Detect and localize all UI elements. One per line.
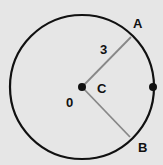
right-point-dot bbox=[149, 83, 157, 91]
label-a: A bbox=[133, 16, 143, 31]
label-b: B bbox=[138, 140, 147, 155]
center-point-dot bbox=[78, 83, 86, 91]
label-radius-length: 3 bbox=[100, 42, 107, 57]
label-c: C bbox=[97, 81, 107, 96]
label-zero: 0 bbox=[66, 95, 73, 110]
circle-diagram: A B C 3 0 bbox=[0, 0, 163, 165]
